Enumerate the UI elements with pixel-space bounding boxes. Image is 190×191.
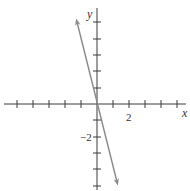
y-axis-label: y xyxy=(86,7,93,21)
x-axis-label: x xyxy=(181,106,188,120)
y-tick-label-neg2: −2 xyxy=(80,131,92,143)
coordinate-plane: x y 2 −2 xyxy=(0,0,190,191)
x-tick-label-2: 2 xyxy=(126,111,132,123)
